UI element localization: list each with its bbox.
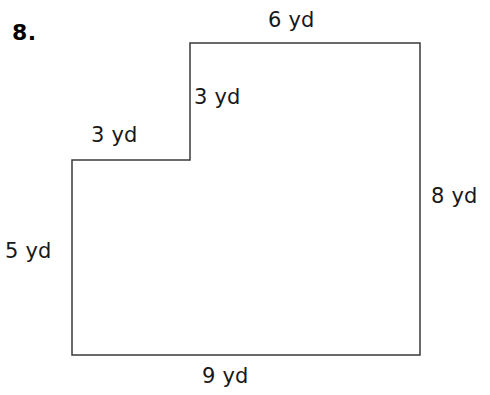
- side-label-step-vertical: 3 yd: [194, 85, 241, 110]
- worksheet-figure-page: 8. 6 yd 3 yd 3 yd 8 yd 5 yd 9 yd: [0, 0, 490, 395]
- side-label-right: 8 yd: [431, 184, 478, 209]
- side-label-left: 5 yd: [5, 239, 52, 264]
- side-label-bottom: 9 yd: [202, 364, 249, 389]
- side-label-top: 6 yd: [268, 8, 315, 33]
- l-shape-outline: [72, 43, 420, 355]
- side-label-step-horizontal: 3 yd: [91, 123, 138, 148]
- l-shaped-polygon-figure: [0, 0, 490, 395]
